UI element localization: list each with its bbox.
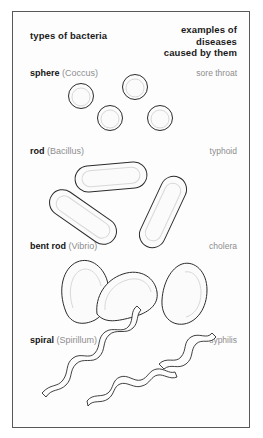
column-header-examples-of-diseases: examples of diseases caused by them	[117, 24, 237, 59]
column-header-line-2: diseases	[117, 36, 237, 48]
row-latin-vibrio: (Vibrio)	[69, 241, 98, 251]
row-disease-typhoid: typhoid	[210, 146, 237, 156]
row-name-sphere: sphere	[30, 68, 60, 78]
row-latin-spirillum: (Spirillum)	[57, 335, 98, 345]
illustration-coccus	[69, 75, 173, 131]
row-label-bent-rod: bent rod (Vibrio)	[30, 241, 97, 251]
row-name-rod: rod	[30, 146, 45, 156]
column-header-line-1: examples of	[117, 24, 237, 36]
row-disease-cholera: cholera	[209, 241, 237, 251]
illustration-vibrio	[62, 260, 207, 324]
row-latin-bacillus: (Bacillus)	[47, 146, 84, 156]
row-name-bent-rod: bent rod	[30, 241, 66, 251]
row-label-sphere: sphere (Coccus)	[30, 68, 98, 78]
row-disease-sore-throat: sore throat	[196, 68, 237, 78]
column-header-line-3: caused by them	[117, 47, 237, 59]
row-name-spiral: spiral	[30, 335, 54, 345]
illustration-spirillum	[42, 306, 216, 406]
illustration-bacillus	[44, 161, 190, 252]
row-disease-syphilis: syphilis	[209, 335, 237, 345]
row-latin-coccus: (Coccus)	[62, 68, 98, 78]
bacteria-types-figure: types of bacteria examples of diseases c…	[12, 11, 250, 428]
column-header-types-of-bacteria: types of bacteria	[30, 30, 107, 41]
row-label-rod: rod (Bacillus)	[30, 146, 84, 156]
row-label-spiral: spiral (Spirillum)	[30, 335, 97, 345]
